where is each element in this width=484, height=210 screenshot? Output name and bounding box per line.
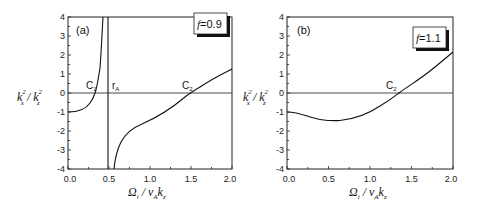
xtick-label: 2.0 [224, 174, 237, 184]
ytick-label: -3 [276, 145, 284, 155]
y-axis-title-a: k2x / k2z [17, 88, 43, 107]
x-tick-labels-b: 0.0 0.5 1.0 1.5 2.0 [283, 174, 458, 184]
ytick-label: 2 [60, 50, 65, 60]
figure: 4 3 2 1 0 -1 -2 -3 -4 0.0 0.5 1.0 1.5 2.… [0, 0, 484, 210]
ytick-label: -2 [57, 126, 65, 136]
x-axis-title-b: Ωi / vAkz [349, 185, 387, 201]
xtick-label: 0.0 [64, 174, 77, 184]
panel-label-b: (b) [297, 24, 310, 36]
y-axis-title-b: k2x / k2z [243, 88, 269, 107]
y-tick-labels-b: 4 3 2 1 0 -1 -2 -3 -4 [276, 12, 284, 174]
annotation-c2-a: C2 [182, 80, 193, 92]
xtick-label: 0.5 [103, 174, 116, 184]
ytick-label: 0 [60, 88, 65, 98]
ytick-label: -4 [276, 164, 284, 174]
ytick-label: 0 [279, 88, 284, 98]
xtick-label: 2.0 [445, 174, 458, 184]
xtick-label: 1.5 [405, 174, 418, 184]
ytick-label: 3 [279, 31, 284, 41]
ytick-label: -4 [57, 164, 65, 174]
ytick-label: 4 [60, 12, 65, 22]
ytick-label: -1 [276, 107, 284, 117]
curve-a-branch-2 [114, 69, 232, 169]
annotation-ra: rA [112, 80, 119, 92]
x-axis-title-a: Ωi / vAkz [128, 185, 166, 201]
x-tick-labels-a: 0.0 0.5 1.0 1.5 2.0 [64, 174, 237, 184]
ytick-label: 2 [279, 50, 284, 60]
param-text-a: f=0.9 [197, 18, 222, 30]
xtick-label: 1.5 [185, 174, 198, 184]
ytick-label: 3 [60, 31, 65, 41]
panel-b: 4 3 2 1 0 -1 -2 -3 -4 0.0 0.5 1.0 1.5 2.… [243, 12, 457, 201]
annotation-c2-b: C2 [386, 80, 397, 92]
curve-b [287, 52, 453, 121]
xtick-label: 1.0 [144, 174, 157, 184]
xtick-label: 0.5 [322, 174, 335, 184]
xtick-label: 1.0 [364, 174, 377, 184]
ytick-label: 1 [60, 69, 65, 79]
ytick-label: -1 [57, 107, 65, 117]
ytick-label: 1 [279, 69, 284, 79]
xtick-label: 0.0 [283, 174, 296, 184]
annotation-c1: C1 [86, 80, 97, 92]
ytick-label: 4 [279, 12, 284, 22]
y-tick-labels-a: 4 3 2 1 0 -1 -2 -3 -4 [57, 12, 65, 174]
panel-a: 4 3 2 1 0 -1 -2 -3 -4 0.0 0.5 1.0 1.5 2.… [17, 12, 236, 201]
panel-label-a: (a) [76, 24, 89, 36]
ytick-label: -3 [57, 145, 65, 155]
ytick-label: -2 [276, 126, 284, 136]
param-text-b: f=1.1 [416, 32, 441, 44]
